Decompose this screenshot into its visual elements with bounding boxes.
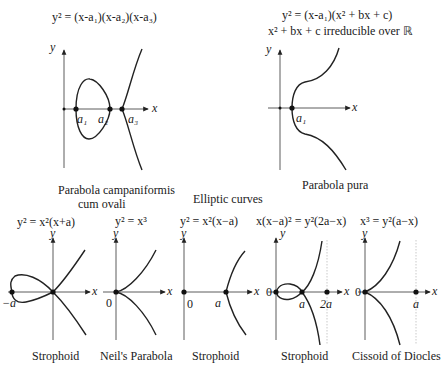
x-axis-label: x <box>254 284 259 299</box>
x-axis-label: x <box>152 101 157 116</box>
caption-campaniformis: Parabola campaniformis <box>58 183 175 198</box>
point-a1: a₁ <box>296 111 306 126</box>
point-a2: a₂ <box>98 112 108 127</box>
point-origin: 0 <box>106 296 112 311</box>
equation-campaniformis: y² = (x-a₁)(x-a₂)(x-a₃) <box>52 10 157 25</box>
caption-strophoid-3: Strophoid <box>281 349 328 364</box>
equation-neil: y² = x³ <box>115 214 147 229</box>
equation-strophoid-3: x(x−a)² = y²(2a−x) <box>256 214 346 229</box>
point-a: a <box>215 296 221 311</box>
point-origin: 0 <box>187 297 193 312</box>
point-2a: 2a <box>320 297 332 312</box>
equation-strophoid-2: y² = x²(x−a) <box>180 214 238 229</box>
caption-neil: Neil's Parabola <box>100 349 172 364</box>
irreducible-condition: x² + bx + c irreducible over ℝ <box>268 24 413 39</box>
y-axis-label: y <box>50 226 55 241</box>
caption-parabola-pura: Parabola pura <box>302 178 368 193</box>
caption-campaniformis-2: cum ovali <box>78 197 126 212</box>
caption-strophoid-1: Strophoid <box>32 349 79 364</box>
y-axis-label: y <box>50 40 55 55</box>
x-axis-label: x <box>92 284 97 299</box>
point-a: a <box>299 297 305 312</box>
caption-strophoid-2: Strophoid <box>192 349 239 364</box>
y-axis-label: y <box>280 226 285 241</box>
x-axis-label: x <box>432 284 437 299</box>
point-neg-a: −a <box>2 296 16 311</box>
point-origin: 0 <box>355 285 361 300</box>
x-axis-label: x <box>167 284 172 299</box>
point-a1: a₁ <box>77 112 87 127</box>
figure-title: Elliptic curves <box>193 192 263 207</box>
caption-cissoid: Cissoid of Diocles <box>352 349 441 364</box>
y-axis-label: y <box>266 42 271 57</box>
y-axis-label: y <box>113 226 118 241</box>
equation-cissoid: x³ = y²(a−x) <box>360 214 418 229</box>
point-a: a <box>413 297 419 312</box>
equation-parabola-pura: y² = (x-a₁)(x² + bx + c) <box>282 8 392 23</box>
point-origin: 0 <box>266 285 272 300</box>
point-a3: a₃ <box>128 112 138 127</box>
y-axis-label: y <box>362 226 367 241</box>
y-axis-label: y <box>181 226 186 241</box>
x-axis-label: x <box>352 100 357 115</box>
equation-strophoid-1: y² = x²(x+a) <box>17 215 75 230</box>
x-axis-label: x <box>344 284 349 299</box>
